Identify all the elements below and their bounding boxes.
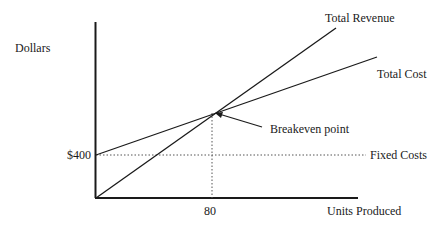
breakeven-chart: Dollars $400 80 Units Produced Total Rev… <box>0 0 438 228</box>
y-axis-label: Dollars <box>15 41 51 55</box>
x-axis-label: Units Produced <box>327 204 401 218</box>
fixed-costs-label: Fixed Costs <box>370 148 427 162</box>
x-tick-80: 80 <box>204 204 216 218</box>
y-tick-400: $400 <box>67 148 91 162</box>
chart-canvas: Dollars $400 80 Units Produced Total Rev… <box>0 0 438 228</box>
breakeven-arrow <box>219 114 262 127</box>
breakeven-label: Breakeven point <box>270 122 350 136</box>
arrowhead-icon <box>215 112 223 118</box>
total-revenue-label: Total Revenue <box>325 11 394 25</box>
total-cost-line <box>96 57 377 155</box>
total-cost-label: Total Cost <box>377 67 427 81</box>
